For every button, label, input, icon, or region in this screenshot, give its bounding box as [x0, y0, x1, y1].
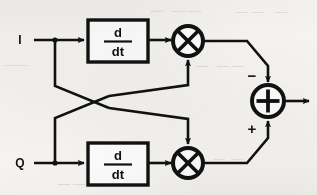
derivative-bottom-numerator: d	[114, 148, 122, 163]
summer-sign-minus: −	[248, 67, 257, 84]
schematic-svg: I Q d dt d dt	[0, 0, 317, 195]
wire-mult-bottom-to-summer	[203, 121, 268, 163]
wire-q-tap-to-mult-top	[109, 60, 188, 96]
multiplier-top[interactable]	[173, 26, 203, 56]
multiplier-bottom[interactable]	[173, 148, 203, 178]
derivative-top-numerator: d	[114, 25, 122, 40]
derivative-block-bottom[interactable]: d dt	[88, 143, 148, 185]
wire-mult-top-to-summer	[203, 41, 268, 82]
derivative-top-denominator: dt	[112, 44, 125, 59]
junction-dot-q-tap	[52, 160, 57, 165]
junction-dot-i-tap	[52, 37, 57, 42]
block-diagram-canvas: — —— —— — —— — —— —— — — —	[0, 0, 317, 195]
derivative-bottom-denominator: dt	[112, 167, 125, 182]
input-label-q: Q	[15, 156, 24, 170]
derivative-block-top[interactable]: d dt	[88, 20, 148, 62]
wire-i-tap-to-mult-bottom	[109, 108, 188, 144]
summer-sign-plus: +	[248, 120, 257, 137]
summing-junction[interactable]	[252, 85, 284, 117]
input-label-i: I	[18, 33, 21, 47]
